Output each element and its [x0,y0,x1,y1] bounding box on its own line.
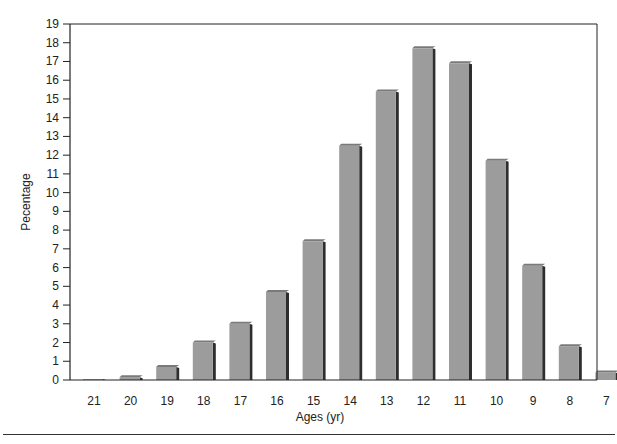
y-tick-label: 13 [46,129,60,143]
y-tick-label: 6 [52,261,59,275]
bar [412,46,435,380]
x-tick-label: 14 [344,394,358,408]
x-axis-labels: 212019181716151413121110987 [87,394,610,408]
y-tick-label: 17 [46,54,60,68]
y-tick-label: 11 [47,167,60,181]
y-tick-label: 2 [52,336,59,350]
y-tick-label: 4 [52,298,59,312]
y-tick-label: 9 [52,204,59,218]
x-tick-label: 21 [87,394,101,408]
bar [339,144,362,380]
bar [120,375,143,380]
y-tick-label: 19 [46,17,60,31]
x-tick-label: 7 [603,394,610,408]
bar [559,344,582,380]
x-tick-label: 16 [270,394,284,408]
bar [303,239,326,380]
x-tick-label: 9 [530,394,537,408]
bar [229,322,252,380]
footer-rule [3,434,615,435]
y-tick-label: 18 [46,36,60,50]
x-tick-label: 12 [417,394,431,408]
y-axis-title: Pecentage [19,173,33,231]
y-tick-label: 8 [52,223,59,237]
x-tick-label: 17 [234,394,248,408]
y-tick-label: 1 [52,354,59,368]
bar [266,290,289,380]
x-tick-label: 13 [380,394,394,408]
y-tick-label: 10 [46,186,60,200]
y-axis-ticks: 012345678910111213141516171819 [46,17,70,387]
bar [156,365,179,380]
bar [193,341,216,380]
bars [83,46,617,380]
bar [595,371,617,380]
x-tick-label: 10 [490,394,504,408]
x-tick-label: 8 [566,394,573,408]
x-tick-label: 19 [161,394,175,408]
x-tick-label: 18 [197,394,211,408]
bar [376,89,399,380]
y-tick-label: 0 [52,373,59,387]
x-tick-label: 11 [454,394,467,408]
y-tick-label: 7 [52,242,59,256]
y-tick-label: 16 [46,73,60,87]
y-tick-label: 3 [52,317,59,331]
bar [486,159,509,380]
bar [449,61,472,380]
y-tick-label: 15 [46,92,60,106]
y-tick-label: 12 [46,148,60,162]
x-tick-label: 20 [124,394,138,408]
x-axis-title: Ages (yr) [296,410,345,424]
y-tick-label: 14 [46,111,60,125]
bar-chart: 012345678910111213141516171819 212019181… [0,0,617,444]
bar [522,264,545,380]
x-tick-label: 15 [307,394,321,408]
y-tick-label: 5 [52,279,59,293]
